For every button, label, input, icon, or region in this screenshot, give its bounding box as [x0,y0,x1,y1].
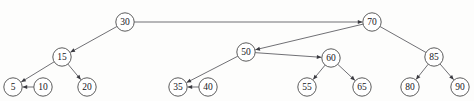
tree-node-80[interactable]: 80 [401,78,419,96]
tree-node-60[interactable]: 60 [322,49,340,67]
edge-85-to-80 [416,64,428,79]
tree-node-65[interactable]: 65 [353,78,371,96]
tree-node-50[interactable]: 50 [237,43,255,61]
node-label: 35 [173,82,183,92]
edge-30-to-70 [134,20,362,24]
node-label: 70 [367,17,377,27]
tree-node-35[interactable]: 35 [169,78,187,96]
node-label: 40 [203,82,213,92]
edge-40-to-35 [188,85,199,89]
arrowhead-icon [358,20,363,24]
tree-node-5[interactable]: 5 [4,78,22,96]
arrowhead-icon [23,85,28,89]
node-label: 30 [120,17,130,27]
node-label: 80 [405,82,415,92]
tree-node-30[interactable]: 30 [116,13,134,31]
node-label: 50 [241,47,251,57]
node-label: 15 [57,52,67,62]
edge-15-to-20 [68,64,81,80]
node-label: 55 [302,82,312,92]
tree-canvas: 30701550608551020354055658090 [0,0,474,101]
arrowhead-icon [317,55,322,59]
edge-50-to-60 [255,53,321,59]
edge-70-to-85 [380,27,426,53]
edge-60-to-65 [338,64,355,80]
tree-node-85[interactable]: 85 [425,48,443,66]
arrowhead-icon [21,78,26,82]
nodes-layer: 30701550608551020354055658090 [4,13,469,96]
edge-70-to-50 [255,24,363,51]
node-label: 60 [326,53,336,63]
arrowhead-icon [188,85,193,89]
node-label: 65 [357,82,367,92]
edge-60-to-55 [313,65,325,80]
tree-node-15[interactable]: 15 [53,48,71,66]
node-label: 5 [11,82,16,92]
node-label: 85 [429,52,439,62]
tree-node-70[interactable]: 70 [363,13,381,31]
tree-node-40[interactable]: 40 [199,78,217,96]
node-label: 10 [38,82,48,92]
node-label: 20 [82,82,92,92]
tree-node-20[interactable]: 20 [78,78,96,96]
tree-node-55[interactable]: 55 [298,78,316,96]
tree-node-90[interactable]: 90 [451,78,469,96]
edge-30-to-15 [70,26,117,52]
edge-10-to-5 [23,85,34,89]
tree-node-10[interactable]: 10 [34,78,52,96]
edge-85-to-90 [440,64,454,80]
arrowhead-icon [255,47,260,51]
node-label: 90 [455,82,465,92]
binary-search-tree-figure: 30701550608551020354055658090 [0,0,474,101]
